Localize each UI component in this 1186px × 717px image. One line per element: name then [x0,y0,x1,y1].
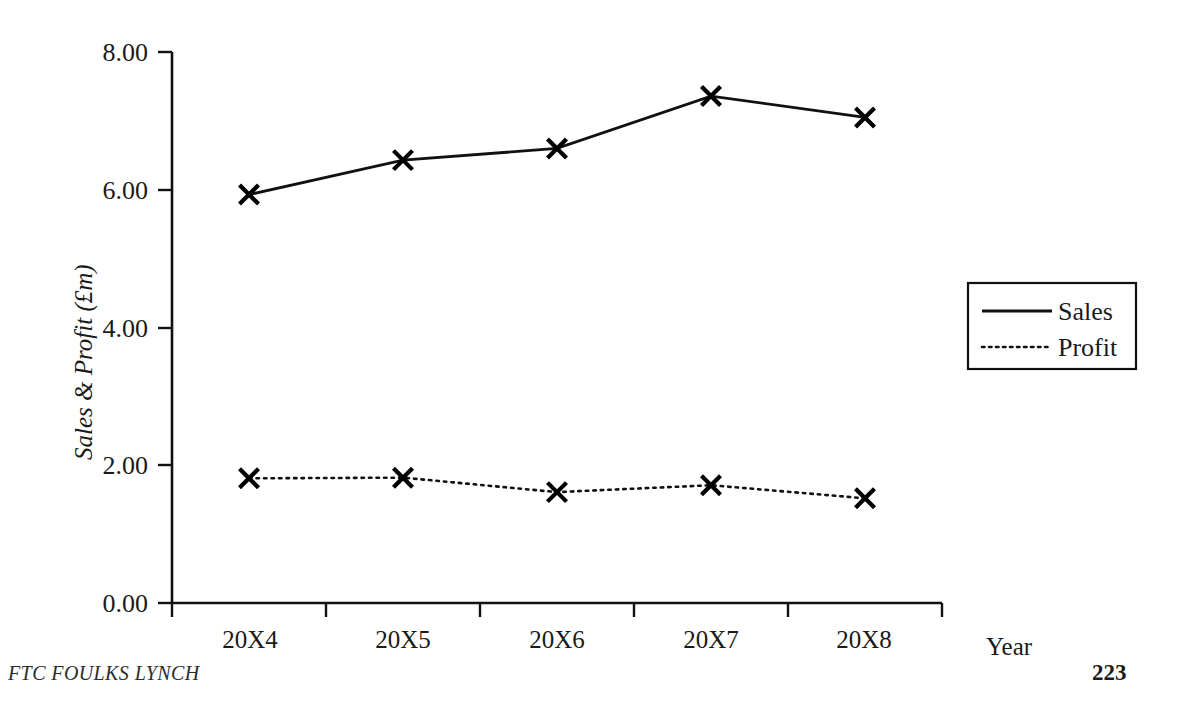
x-category-label-1: 20X5 [375,626,431,653]
chart-page: 8.00 6.00 4.00 2.00 0.00 20X4 20X5 20X6 … [0,0,1186,717]
y-tick-label-0: 0.00 [103,589,149,618]
sales-line [249,96,865,194]
y-tick-label-2: 2.00 [103,451,149,480]
series-sales [240,87,875,204]
y-axis-title: Sales & Profit (£m) [70,264,98,460]
legend-label-profit: Profit [1058,333,1118,362]
page-number: 223 [1092,660,1127,686]
x-category-label-3: 20X7 [683,626,739,653]
legend-label-sales: Sales [1058,297,1113,326]
x-axis-title: Year [986,633,1033,660]
profit-marker-3 [702,476,721,495]
y-axis-ticks [158,52,172,603]
sales-marker-0 [240,185,259,204]
chart-legend[interactable]: Sales Profit [968,283,1136,369]
y-tick-label-8: 8.00 [103,38,149,67]
y-tick-label-6: 6.00 [103,176,149,205]
line-chart: 8.00 6.00 4.00 2.00 0.00 20X4 20X5 20X6 … [0,0,1186,717]
x-axis-ticks [172,603,942,617]
profit-line [249,478,865,499]
y-tick-label-4: 4.00 [103,314,149,343]
x-category-label-0: 20X4 [222,626,278,653]
x-category-label-4: 20X8 [836,626,892,653]
series-profit [240,468,875,508]
x-category-label-2: 20X6 [529,626,585,653]
profit-markers [240,468,875,508]
footer-publisher: FTC FOULKS LYNCH [8,662,200,685]
